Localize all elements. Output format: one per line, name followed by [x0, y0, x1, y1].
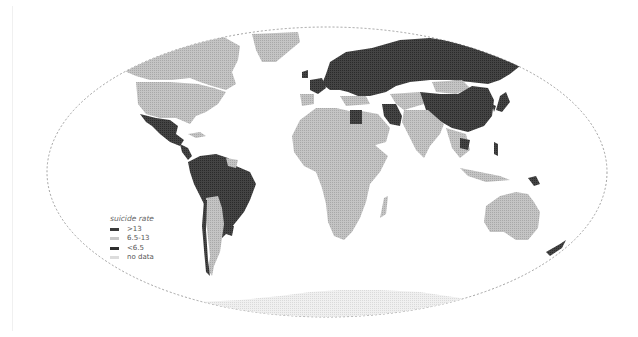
- region-egypt: [350, 110, 362, 124]
- region-madagascar: [380, 196, 388, 218]
- region-philippines: [494, 142, 498, 156]
- legend-item-high: >13: [110, 225, 154, 235]
- region-argentina: [206, 196, 224, 276]
- region-central-america: [180, 144, 192, 160]
- legend-label: no data: [127, 253, 154, 263]
- region-japan: [496, 92, 510, 112]
- legend-title: suicide rate: [110, 214, 154, 224]
- region-antarctica: [168, 290, 470, 318]
- region-indonesia: [460, 168, 510, 182]
- region-greenland: [252, 32, 300, 62]
- region-papua-new-guinea: [528, 176, 540, 186]
- legend-swatch-icon: [110, 228, 119, 231]
- region-europe-russia: [322, 38, 520, 96]
- legend-item-low: <6.5: [110, 244, 154, 254]
- legend-item-mid: 6.5-13: [110, 234, 154, 244]
- legend-item-no-data: no data: [110, 253, 154, 263]
- region-turkey: [340, 96, 370, 106]
- legend-label: >13: [127, 225, 142, 235]
- region-caribbean: [188, 132, 206, 138]
- legend-swatch-icon: [110, 237, 119, 240]
- region-uruguay: [226, 226, 234, 236]
- region-canada: [116, 36, 240, 90]
- legend-label: 6.5-13: [127, 234, 150, 244]
- region-uk: [302, 70, 308, 78]
- region-mexico: [140, 114, 184, 146]
- legend-swatch-icon: [110, 247, 119, 250]
- region-iberia: [300, 94, 314, 106]
- legend: suicide rate >13 6.5-13 <6.5 no data: [110, 214, 154, 263]
- region-new-zealand: [546, 240, 566, 256]
- world-map: [0, 0, 638, 337]
- legend-swatch-icon: [110, 256, 119, 259]
- region-australia: [484, 192, 540, 240]
- legend-label: <6.5: [127, 244, 144, 254]
